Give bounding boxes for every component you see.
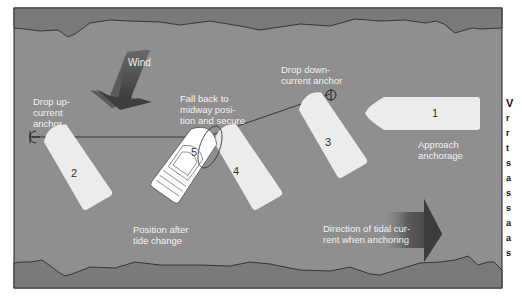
- label-line: tide change: [133, 235, 188, 246]
- label-line: tion and secure: [180, 115, 245, 126]
- side-text-fragment: s: [506, 156, 513, 171]
- label-line: rent when anchoring: [323, 234, 410, 245]
- boat-3-number: 3: [325, 136, 331, 148]
- label-line: Drop down-: [281, 64, 342, 75]
- side-text-fragment: a: [506, 216, 513, 231]
- boat-5-number: 5: [191, 146, 197, 158]
- side-text-fragment: s: [506, 201, 513, 216]
- label-line: midway posi-: [180, 104, 245, 115]
- label-line: anchor: [33, 118, 70, 129]
- label-line: Position after: [133, 224, 188, 235]
- approach-label: Approach anchorage: [418, 139, 463, 161]
- label-line: Direction of tidal cur-: [323, 223, 410, 234]
- label-line: Fall back to: [180, 93, 245, 104]
- boat-1-number: 1: [432, 107, 438, 119]
- label-line: current anchor: [281, 75, 342, 86]
- boat-1: [365, 97, 480, 130]
- boat-2-number: 2: [71, 167, 77, 179]
- side-text-fragment: V: [506, 96, 513, 111]
- side-text-fragment: s: [506, 186, 513, 201]
- boat-4-number: 4: [233, 165, 239, 177]
- side-text-fragment: r: [506, 126, 513, 141]
- tidal-current-label: Direction of tidal cur- rent when anchor…: [323, 223, 410, 245]
- drop-down-current-label: Drop down- current anchor: [281, 64, 342, 86]
- side-text-fragment: r: [506, 111, 513, 126]
- side-text-fragment: s: [506, 246, 513, 261]
- position-after-label: Position after tide change: [133, 224, 188, 246]
- fall-back-label: Fall back to midway posi- tion and secur…: [180, 93, 245, 126]
- label-line: Approach: [418, 139, 463, 150]
- side-text-fragment: t: [506, 141, 513, 156]
- label-line: anchorage: [418, 150, 463, 161]
- side-text-fragment: a: [506, 171, 513, 186]
- cropped-side-text: V r r t s a s s a a s: [506, 96, 513, 261]
- label-line: current: [33, 107, 70, 118]
- drop-up-current-label: Drop up- current anchor: [33, 96, 70, 129]
- label-line: Drop up-: [33, 96, 70, 107]
- wind-label: Wind: [128, 57, 151, 68]
- side-text-fragment: a: [506, 231, 513, 246]
